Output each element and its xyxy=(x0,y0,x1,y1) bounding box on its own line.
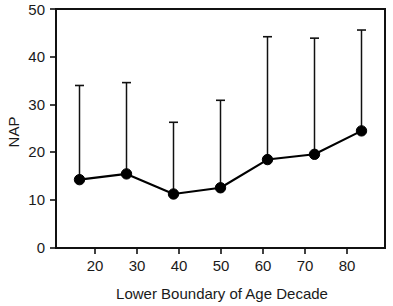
data-point-60 xyxy=(262,154,272,164)
y-tick-label-0: 0 xyxy=(37,239,45,256)
x-tick-label-80: 80 xyxy=(339,257,356,274)
x-tick-label-40: 40 xyxy=(171,257,188,274)
x-tick-label-20: 20 xyxy=(87,257,104,274)
x-tick-label-60: 60 xyxy=(255,257,272,274)
data-point-30 xyxy=(121,169,131,179)
x-tick-label-70: 70 xyxy=(297,257,314,274)
data-point-70 xyxy=(309,149,319,159)
y-tick-label-50: 50 xyxy=(28,1,45,18)
x-axis-title: Lower Boundary of Age Decade xyxy=(116,285,328,302)
data-point-50 xyxy=(215,183,225,193)
chart-background xyxy=(0,0,393,306)
chart-container: 0 10 20 30 40 50 20 30 40 50 60 70 80 xyxy=(0,0,393,306)
data-point-20 xyxy=(74,174,84,184)
x-tick-label-30: 30 xyxy=(129,257,146,274)
data-point-40 xyxy=(168,189,178,199)
y-tick-label-20: 20 xyxy=(28,143,45,160)
nap-vs-age-decade-chart: 0 10 20 30 40 50 20 30 40 50 60 70 80 xyxy=(0,0,393,306)
y-axis-title: NAP xyxy=(5,117,22,148)
x-tick-label-50: 50 xyxy=(213,257,230,274)
y-tick-label-10: 10 xyxy=(28,191,45,208)
data-point-80 xyxy=(356,126,366,136)
y-tick-label-30: 30 xyxy=(28,96,45,113)
y-tick-label-40: 40 xyxy=(28,48,45,65)
